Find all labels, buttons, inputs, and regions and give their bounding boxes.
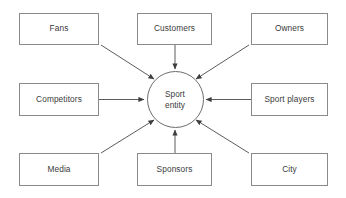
- node-box-media[interactable]: Media: [19, 153, 99, 186]
- center-label-line1: Sport: [165, 89, 185, 99]
- node-box-city[interactable]: City: [251, 153, 328, 186]
- node-label-customers: Customers: [154, 24, 195, 34]
- arrow-media-to-sport-entity: [101, 120, 154, 153]
- node-label-sponsors: Sponsors: [157, 165, 193, 175]
- node-box-fans[interactable]: Fans: [19, 13, 99, 45]
- node-label-city: City: [282, 165, 297, 175]
- arrow-fans-to-sport-entity: [101, 45, 154, 79]
- arrow-city-to-sport-entity: [196, 120, 249, 153]
- node-box-competitors[interactable]: Competitors: [19, 83, 99, 116]
- node-label-fans: Fans: [50, 24, 69, 34]
- node-label-sport-players: Sport players: [264, 95, 314, 105]
- center-node-sport-entity[interactable]: Sport entity: [147, 71, 204, 128]
- arrow-owners-to-sport-entity: [196, 45, 249, 79]
- node-label-competitors: Competitors: [36, 95, 82, 105]
- center-label-line2: entity: [165, 100, 185, 110]
- node-box-sport-players[interactable]: Sport players: [251, 83, 328, 116]
- node-box-customers[interactable]: Customers: [137, 13, 212, 45]
- diagram-canvas: Fans Customers Owners Competitors Sport …: [0, 0, 346, 198]
- node-label-media: Media: [47, 165, 70, 175]
- node-label-owners: Owners: [275, 24, 304, 34]
- node-box-sponsors[interactable]: Sponsors: [137, 153, 212, 186]
- node-box-owners[interactable]: Owners: [251, 13, 328, 45]
